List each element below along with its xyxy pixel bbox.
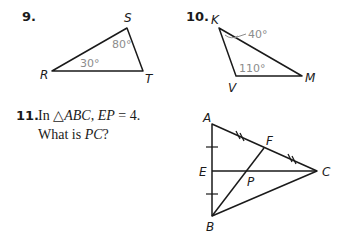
point-E-label: E [199, 165, 207, 179]
vertex-B-label: B [206, 220, 214, 234]
point-P-label: P [247, 175, 255, 189]
point-F-label: F [266, 134, 274, 148]
vertex-C-label: C [322, 165, 331, 179]
problem-11-triangle: A E B C F P [0, 0, 341, 250]
vertex-A-label: A [202, 111, 211, 125]
